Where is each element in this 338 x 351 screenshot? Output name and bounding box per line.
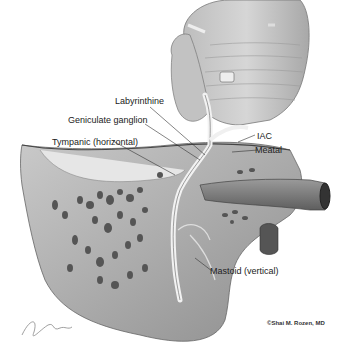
- label-mastoid: Mastoid (vertical): [210, 266, 279, 276]
- label-meatal: Meatal: [255, 145, 282, 155]
- brainstem-shape: [171, 0, 309, 125]
- label-geniculate-ganglion: Geniculate ganglion: [68, 115, 148, 125]
- label-tympanic: Tympanic (horizontal): [52, 137, 138, 147]
- label-labyrinthine: Labyrinthine: [115, 96, 164, 106]
- anatomy-illustration: [0, 0, 338, 351]
- signature-scribble: [22, 322, 72, 336]
- label-iac: IAC: [257, 131, 272, 141]
- copyright-text: ©Shai M. Rozen, MD: [267, 320, 325, 326]
